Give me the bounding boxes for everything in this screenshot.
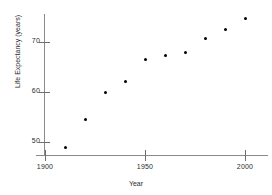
data-point xyxy=(184,51,187,54)
x-axis-tick-label: 2000 xyxy=(225,163,265,170)
data-point xyxy=(64,146,67,149)
scatter-chart: Life Expectancy (years) Year 50607019001… xyxy=(0,0,272,195)
x-axis-tick-label: 1900 xyxy=(25,163,65,170)
y-axis-tick-label: 60 xyxy=(16,87,40,94)
x-axis-title: Year xyxy=(0,180,272,187)
data-point xyxy=(244,17,247,20)
data-point xyxy=(104,91,107,94)
data-point xyxy=(224,28,227,31)
data-point xyxy=(164,54,167,57)
data-point xyxy=(124,80,127,83)
y-axis-tick-label: 70 xyxy=(16,37,40,44)
data-point xyxy=(84,118,87,121)
data-point xyxy=(144,58,147,61)
data-point xyxy=(204,37,207,40)
x-axis-tick xyxy=(45,150,46,161)
y-axis-tick xyxy=(39,92,50,93)
x-axis-tick xyxy=(245,150,246,161)
x-axis-tick-label: 1950 xyxy=(125,163,165,170)
x-axis-tick xyxy=(145,150,146,161)
y-axis-tick xyxy=(39,142,50,143)
y-axis-tick xyxy=(39,42,50,43)
y-axis-tick-label: 50 xyxy=(16,137,40,144)
